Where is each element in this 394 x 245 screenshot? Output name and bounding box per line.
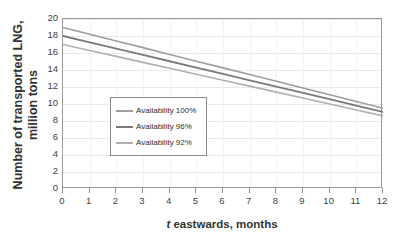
x-axis-tick-label: 11 (343, 196, 367, 206)
legend-item[interactable]: Availability 100% (116, 103, 202, 119)
y-axis-tick-label: 20 (36, 13, 58, 23)
legend-item[interactable]: Availability 96% (116, 119, 202, 135)
legend-item-label: Availability 100% (136, 107, 196, 115)
legend-color-swatch (116, 126, 133, 128)
x-axis-tick-label: 8 (263, 196, 287, 206)
x-axis-tick-label: 3 (130, 196, 154, 206)
y-axis-tick-label: 16 (36, 47, 58, 57)
x-axis-tick-mark (222, 188, 223, 193)
x-axis-tick-label: 7 (237, 196, 261, 206)
x-axis-tick-mark (62, 188, 63, 193)
y-axis-title-line1: Number of transported LNG, (11, 21, 26, 190)
x-axis-tick-label: 2 (103, 196, 127, 206)
x-axis-tick-mark (142, 188, 143, 193)
x-axis-tick-labels: 0123456789101112 (62, 196, 382, 210)
y-axis-tick-label: 18 (36, 30, 58, 40)
legend-item-label: Availability 92% (136, 139, 192, 147)
y-axis-tick-label: 12 (36, 81, 58, 91)
x-axis-tick-mark (89, 188, 90, 193)
y-axis-tick-label: 8 (36, 115, 58, 125)
legend-color-swatch (116, 142, 133, 144)
x-axis-tick-mark (195, 188, 196, 193)
x-axis-tick-label: 5 (183, 196, 207, 206)
x-axis-tick-mark (382, 188, 383, 193)
chart-legend: Availability 100%Availability 96%Availab… (110, 97, 207, 156)
x-axis-tick-label: 10 (317, 196, 341, 206)
x-axis-tick-mark (169, 188, 170, 193)
x-axis-title: t eastwards, months (62, 218, 382, 230)
x-axis-title-text: eastwards, months (170, 218, 277, 230)
y-axis-tick-label: 4 (36, 149, 58, 159)
x-axis-tick-mark (249, 188, 250, 193)
x-axis-tick-label: 4 (157, 196, 181, 206)
x-axis-tick-label: 12 (370, 196, 394, 206)
x-axis-tick-mark (115, 188, 116, 193)
y-axis-tick-label: 6 (36, 132, 58, 142)
legend-item-label: Availability 96% (136, 123, 192, 131)
x-axis-tick-mark (275, 188, 276, 193)
y-axis-tick-labels: 02468101214161820 (32, 0, 58, 245)
x-axis-tick-label: 6 (210, 196, 234, 206)
x-axis-tick-label: 0 (50, 196, 74, 206)
x-axis-tick-mark (302, 188, 303, 193)
legend-color-swatch (116, 110, 133, 112)
x-axis-tick-label: 9 (290, 196, 314, 206)
legend-item[interactable]: Availability 92% (116, 135, 202, 151)
y-axis-tick-label: 14 (36, 64, 58, 74)
x-axis-tick-label: 1 (77, 196, 101, 206)
x-axis-tick-mark (355, 188, 356, 193)
y-axis-tick-label: 2 (36, 166, 58, 176)
x-axis-tick-mark (329, 188, 330, 193)
lng-line-chart: Number of transported LNG, million tons … (0, 0, 394, 245)
y-axis-tick-label: 10 (36, 98, 58, 108)
y-axis-tick-label: 0 (36, 183, 58, 193)
